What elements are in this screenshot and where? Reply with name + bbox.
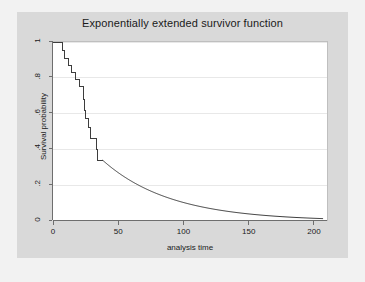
x-tick-label: 150 [234,227,264,236]
exponential-extension-line [103,160,324,218]
chart-screenshot: Exponentially extended survivor function… [0,0,365,282]
y-tick-label: .8 [33,65,42,87]
x-axis-label: analysis time [53,243,327,252]
y-tick-label: 1 [33,30,42,52]
page-title: Exponentially extended survivor function [17,17,348,29]
y-tick-label: .4 [33,137,42,159]
x-tick-label: 100 [168,227,198,236]
y-tick-label: .6 [33,101,42,123]
survivor-step-line [53,42,103,160]
y-tick-label: .2 [33,173,42,195]
x-tick-label: 200 [299,227,329,236]
gridlines [53,42,327,221]
x-tick-label: 0 [38,227,68,236]
plot-area [53,41,328,221]
survivor-function-plot [53,42,327,221]
x-tick-label: 50 [103,227,133,236]
